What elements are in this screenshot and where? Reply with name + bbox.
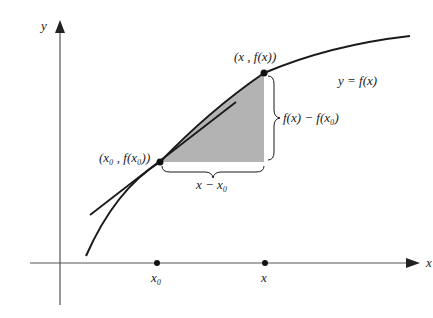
brace-horizontal-label: x − x₀ [195, 177, 227, 192]
point-x0-fx0-label: (x₀ , f(x₀)) [99, 150, 150, 165]
brace-vertical-label: f(x) − f(x₀) [283, 110, 339, 125]
point-x-fx [261, 70, 268, 77]
x-axis-arrow-icon [406, 258, 420, 268]
curve-label: y = f(x) [336, 73, 377, 88]
vertical-brace [268, 76, 280, 160]
tick-x [262, 260, 268, 266]
point-x0-fx0 [157, 159, 164, 166]
tick-x0-label: x₀ [150, 270, 161, 285]
y-axis-arrow-icon [55, 20, 65, 33]
tick-x-label: x [260, 270, 267, 285]
point-x-fx-label: (x , f(x)) [234, 49, 276, 64]
diagram-canvas: y x y = f(x) (x , f(x)) (x₀ , f(x₀)) x −… [0, 0, 433, 318]
x-axis-label: x [425, 255, 432, 270]
y-axis-label: y [39, 18, 47, 33]
tick-x0 [154, 260, 160, 266]
